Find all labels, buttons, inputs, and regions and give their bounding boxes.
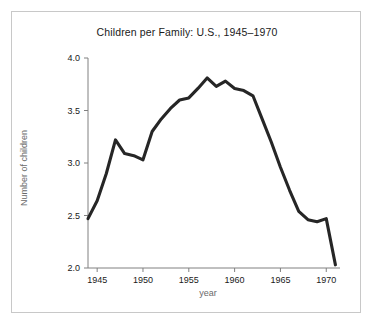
x-axis-tick-label: 1970 <box>316 275 336 285</box>
y-axis-title: Number of children <box>19 98 29 238</box>
x-axis-title: year <box>88 288 328 298</box>
y-axis-tick-label: 2.5 <box>67 211 80 221</box>
y-axis-tick-label: 3.5 <box>67 106 80 116</box>
x-axis-ticks: 194519501955196019651970 <box>87 268 336 285</box>
data-line-children-per-family <box>88 78 335 265</box>
plot-area: 2.02.53.03.54.0 194519501955196019651970 <box>0 0 374 327</box>
data-series-group <box>88 78 335 265</box>
y-axis-tick-label: 4.0 <box>67 53 80 63</box>
y-axis-ticks: 2.02.53.03.54.0 <box>67 53 88 273</box>
x-axis-tick-label: 1955 <box>179 275 199 285</box>
x-axis-tick-label: 1960 <box>225 275 245 285</box>
y-axis-tick-label: 3.0 <box>67 158 80 168</box>
x-axis-tick-label: 1945 <box>87 275 107 285</box>
y-axis-tick-label: 2.0 <box>67 263 80 273</box>
axes <box>88 58 340 268</box>
chart-figure: Children per Family: U.S., 1945–1970 2.0… <box>0 0 374 327</box>
x-axis-tick-label: 1950 <box>133 275 153 285</box>
x-axis-tick-label: 1965 <box>270 275 290 285</box>
